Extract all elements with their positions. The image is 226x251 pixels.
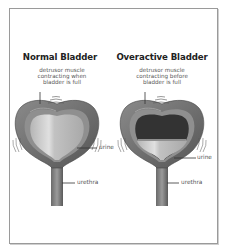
normal-urine-label: urine — [99, 144, 114, 150]
caption-line: bladder is full — [38, 79, 87, 85]
overactive-bladder-caption: detrusor muscle contracting before bladd… — [136, 67, 188, 85]
normal-bladder-title: Normal Bladder — [23, 52, 97, 62]
bladder-illustrations — [0, 0, 226, 251]
overactive-bladder-title: Overactive Bladder — [116, 52, 207, 62]
normal-bladder-caption: detrusor muscle contracting when bladder… — [38, 67, 87, 85]
normal-urethra-label: urethra — [77, 179, 98, 185]
overactive-bladder-illustration — [118, 92, 206, 206]
normal-bladder-illustration — [13, 92, 101, 206]
overactive-urine-label: urine — [197, 154, 212, 160]
overactive-urethra-label: urethra — [181, 179, 202, 185]
caption-line: bladder is full — [136, 79, 188, 85]
